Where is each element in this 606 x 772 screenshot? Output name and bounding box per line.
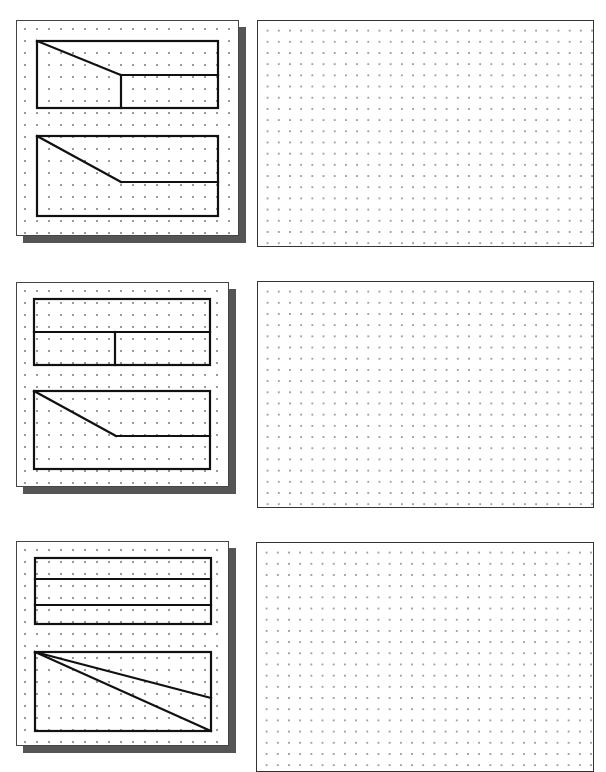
exercise-3-sketch-grid[interactable]	[256, 542, 594, 772]
exercise-3-top-view-outline	[35, 558, 211, 624]
